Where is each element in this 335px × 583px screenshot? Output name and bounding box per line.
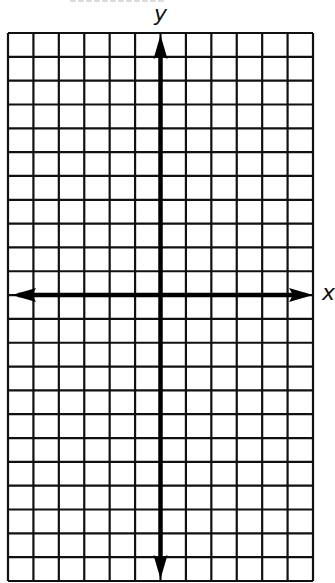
coordinate-grid <box>0 0 333 583</box>
